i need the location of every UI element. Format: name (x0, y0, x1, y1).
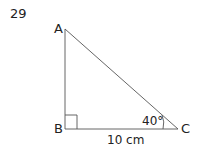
right-angle-marker (65, 115, 77, 129)
vertex-label-a: A (54, 22, 63, 35)
vertex-label-b: B (54, 122, 63, 135)
side-length-label: 10 cm (107, 134, 144, 147)
angle-label: 40° (142, 115, 163, 128)
triangle-diagram (0, 0, 199, 150)
vertex-label-c: C (181, 122, 190, 135)
